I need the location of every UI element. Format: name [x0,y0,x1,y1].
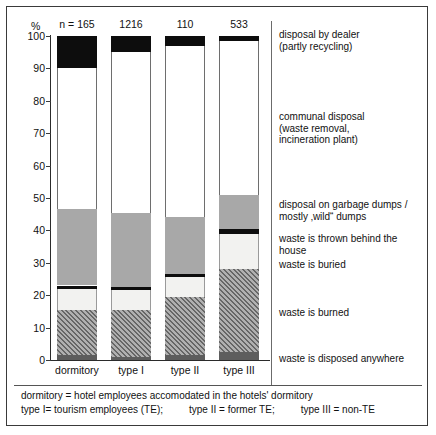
bar-segment-behind[interactable] [219,229,259,234]
bar-segment-buried[interactable] [219,234,259,270]
bar-segment-dealer[interactable] [165,36,205,46]
y-tick-mark-0 [46,360,51,361]
legend-item-behind: waste is thrown behind the house [279,233,427,256]
plot-area: n = 165dormitory1216type I110type II533t… [51,36,269,360]
y-tick-70: 70 [19,128,45,138]
footnote-divider [14,385,422,386]
y-tick-80: 80 [19,96,45,106]
bar-segment-dealer[interactable] [57,36,97,68]
bar-segment-communal[interactable] [111,52,151,212]
bar-segment-communal[interactable] [219,41,259,195]
legend-label-communal-line1: communal disposal [279,111,365,123]
bar-type-i[interactable]: 1216type I [111,36,151,360]
legend-divider [271,21,272,386]
y-tick-0: 0 [19,355,45,365]
bar-type-ii[interactable]: 110type II [165,36,205,360]
y-tick-50: 50 [19,193,45,203]
legend-item-dumps: disposal on garbage dumps / mostly ‚wild… [279,199,407,222]
chart-frame: % 1009080706050403020100 n = 165dormitor… [6,6,428,426]
bar-segment-anywhere[interactable] [57,355,97,360]
legend-item-dealer: disposal by dealer (partly recycling) [279,29,360,52]
bar-segment-burned[interactable] [111,310,151,357]
legend-item-communal: communal disposal (waste removal, incine… [279,111,365,146]
bar-segment-communal[interactable] [165,46,205,218]
footnote-type1: type I= tourism employees (TE); [21,403,163,417]
legend-label-communal-line2: (waste removal, [279,123,365,135]
bar-segment-buried[interactable] [111,290,151,309]
footnote: dormitory = hotel employees accomodated … [21,389,421,417]
bar-segment-behind[interactable] [111,287,151,290]
bar-type-iii[interactable]: 533type III [219,36,259,360]
x-label-type-iii: type III [205,364,273,376]
bar-segment-burned[interactable] [165,297,205,355]
legend-item-burned: waste is burned [279,307,349,319]
legend-item-buried: waste is buried [279,259,346,271]
legend-label-communal-line3: incineration plant) [279,134,365,146]
footnote-line-2: type I= tourism employees (TE);type II =… [21,403,421,417]
bar-segment-behind[interactable] [57,286,97,289]
bar-sample-size-3: 533 [205,18,273,30]
footnote-type3: type III = non-TE [301,403,375,417]
bar-segment-burned[interactable] [219,269,259,352]
y-tick-90: 90 [19,63,45,73]
y-tick-60: 60 [19,161,45,171]
bar-segment-buried[interactable] [57,289,97,310]
bar-segment-anywhere[interactable] [165,355,205,360]
bar-segment-burned[interactable] [57,310,97,355]
y-tick-20: 20 [19,290,45,300]
bar-segment-dumps[interactable] [165,217,205,274]
bar-segment-communal[interactable] [57,68,97,209]
bar-segment-dumps[interactable] [57,209,97,285]
bar-segment-dumps[interactable] [111,213,151,288]
legend-label-dumps-line1: disposal on garbage dumps / [279,199,407,211]
footnote-type2: type II = former TE; [189,403,275,417]
bar-segment-dealer[interactable] [219,36,259,41]
bar-segment-anywhere[interactable] [111,357,151,360]
y-tick-40: 40 [19,225,45,235]
y-tick-100: 100 [19,31,45,41]
bar-segment-dealer[interactable] [111,36,151,52]
legend-label-dumps-line2: mostly ‚wild“ dumps [279,211,407,223]
bar-segment-dumps[interactable] [219,195,259,229]
x-axis-line [50,360,270,361]
bar-segment-anywhere[interactable] [219,352,259,360]
bar-segment-buried[interactable] [165,277,205,296]
legend-label-dealer-line2: (partly recycling) [279,41,360,53]
bar-dormitory[interactable]: n = 165dormitory [57,36,97,360]
y-tick-10: 10 [19,323,45,333]
footnote-line-1: dormitory = hotel employees accomodated … [21,389,421,403]
legend-item-anywhere: waste is disposed anywhere [279,353,404,365]
bar-segment-behind[interactable] [165,274,205,277]
y-tick-30: 30 [19,258,45,268]
legend-label-dealer-line1: disposal by dealer [279,29,360,41]
